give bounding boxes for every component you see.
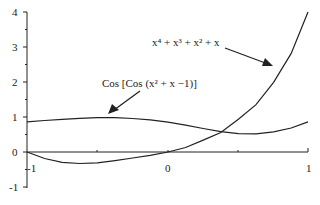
- y-tick-label-neg1: -1: [9, 181, 18, 193]
- cos-arrowhead: [108, 104, 119, 114]
- polynomial-arrow: [225, 48, 268, 64]
- x-ticks: [97, 148, 308, 152]
- x-tick-label-neg1: -1: [27, 162, 36, 174]
- y-tick-label-3: 3: [12, 41, 18, 53]
- y-tick-label-2: 2: [12, 76, 18, 88]
- polynomial-arrowhead: [262, 58, 273, 66]
- y-tick-label-4: 4: [12, 6, 18, 18]
- x-tick-label-1: 1: [306, 162, 312, 174]
- cos-arrow: [114, 91, 140, 110]
- y-tick-label-0: 0: [12, 146, 18, 158]
- polynomial-label: x⁴ + x³ + x² + x: [152, 36, 220, 48]
- function-plot: 4 3 2 1 0 -1 -1 0 1 x⁴ + x³ + x² + x Cos…: [0, 0, 320, 205]
- y-ticks: [23, 12, 27, 187]
- cos-label: Cos [Cos (x² + x −1)]: [102, 77, 197, 90]
- x-tick-label-0: 0: [165, 162, 171, 174]
- y-tick-label-1: 1: [12, 111, 18, 123]
- cos-curve: [27, 118, 308, 134]
